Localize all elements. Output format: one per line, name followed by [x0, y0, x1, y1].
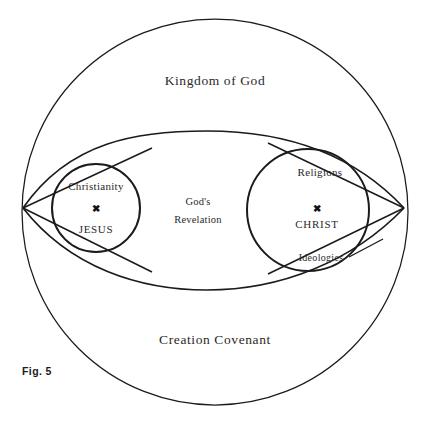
- label-gods-revelation-line2: Revelation: [174, 214, 222, 225]
- label-ideologies: Ideologies: [299, 252, 344, 263]
- marker-x-christ-icon: ✖: [313, 203, 321, 214]
- label-christianity: Christianity: [68, 180, 124, 192]
- label-christ: CHRIST: [295, 218, 338, 230]
- lens-arc-upper: [23, 131, 404, 208]
- label-religions: Religions: [298, 166, 343, 178]
- label-gods-revelation-line1: God's: [185, 196, 210, 207]
- figure-container: Kingdom of God Creation Covenant God's R…: [0, 0, 426, 427]
- lens-vertex-line-left-upper: [23, 148, 152, 208]
- theological-euler-diagram: Kingdom of God Creation Covenant God's R…: [0, 0, 426, 427]
- figure-caption: Fig. 5: [22, 365, 52, 377]
- marker-x-jesus-icon: ✖: [92, 203, 100, 214]
- label-kingdom-of-god: Kingdom of God: [165, 73, 266, 88]
- label-jesus: JESUS: [79, 223, 114, 235]
- label-creation-covenant: Creation Covenant: [159, 332, 271, 347]
